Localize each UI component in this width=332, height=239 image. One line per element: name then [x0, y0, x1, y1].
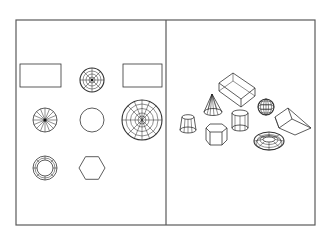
torus-isometric: [254, 132, 284, 150]
sphere-top-view: [80, 68, 104, 92]
dome-top-view: [122, 100, 162, 140]
cylinder-isometric: [232, 110, 248, 131]
box-top-view: [20, 64, 61, 87]
cylinder-top-view: [80, 108, 104, 132]
cone-top-view: [33, 108, 57, 132]
box-isometric: [219, 73, 255, 107]
sphere-isometric: [258, 99, 274, 115]
torus-top-view: [33, 156, 57, 180]
isometric-viewport: [180, 73, 311, 150]
truncated-cone-isometric: [180, 115, 196, 133]
hexagonal-prism-top-view: [79, 157, 105, 180]
cad-drawing: [0, 0, 332, 239]
wedge-top-view: [123, 64, 162, 87]
top-view-viewport: [20, 64, 162, 180]
cone-isometric: [204, 94, 222, 116]
wedge-isometric: [275, 108, 311, 135]
hexagonal-prism-isometric: [206, 124, 227, 145]
